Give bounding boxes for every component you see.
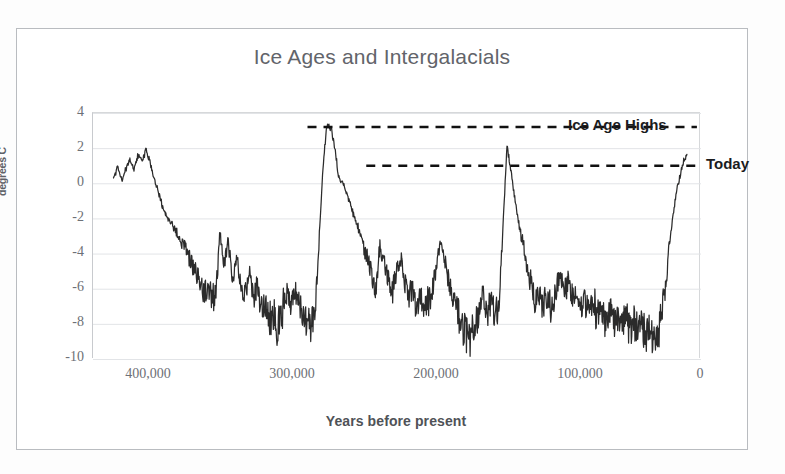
annotation-label-ice-age-highs: Ice Age Highs bbox=[568, 116, 667, 133]
x-tick-label-0: 0 bbox=[645, 366, 755, 382]
temperature-line bbox=[113, 124, 686, 356]
plot-area bbox=[92, 112, 700, 358]
x-tick-label-200000: 200,000 bbox=[381, 366, 491, 382]
x-axis-title: Years before present bbox=[92, 413, 700, 429]
x-tick-label-400000: 400,000 bbox=[93, 366, 203, 382]
y-tick-label-4: 4 bbox=[38, 104, 84, 120]
y-tick-label-2: 2 bbox=[38, 139, 84, 155]
chart-figure: Ice Ages and Intergalacials degrees C 4 … bbox=[0, 0, 785, 474]
chart-title: Ice Ages and Intergalacials bbox=[16, 45, 748, 69]
data-series bbox=[113, 124, 686, 356]
chart-svg bbox=[93, 113, 701, 359]
y-tick-label-neg2: -2 bbox=[38, 209, 84, 225]
y-tick-label-neg6: -6 bbox=[38, 279, 84, 295]
x-tick-label-300000: 300,000 bbox=[237, 366, 347, 382]
y-tick-label-0: 0 bbox=[38, 174, 84, 190]
y-tick-label-neg10: -10 bbox=[38, 349, 84, 365]
y-axis-title: degrees C bbox=[0, 76, 8, 196]
x-tick-label-100000: 100,000 bbox=[525, 366, 635, 382]
annotation-label-today: Today bbox=[706, 155, 749, 172]
y-tick-label-neg4: -4 bbox=[38, 244, 84, 260]
y-tick-label-neg8: -8 bbox=[38, 314, 84, 330]
